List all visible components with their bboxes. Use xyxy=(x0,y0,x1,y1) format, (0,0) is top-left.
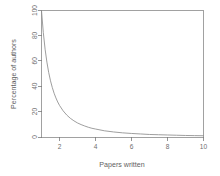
y-axis-title: Percentage of authors xyxy=(10,39,18,109)
y-tick-label: 60 xyxy=(31,57,38,65)
x-tick-label: 10 xyxy=(200,143,208,150)
x-tick-label: 4 xyxy=(94,143,98,150)
chart-figure: 0 20 40 60 80 100 2 4 6 8 10 Papers writ… xyxy=(0,0,220,176)
y-tick-label: 20 xyxy=(31,108,38,116)
x-tick-label: 2 xyxy=(58,143,62,150)
x-tick-label: 6 xyxy=(130,143,134,150)
y-tick-label: 80 xyxy=(31,31,38,39)
plot-svg: 0 20 40 60 80 100 2 4 6 8 10 Papers writ… xyxy=(0,0,220,176)
x-axis-title: Papers written xyxy=(99,161,144,169)
x-tick-label: 8 xyxy=(166,143,170,150)
y-tick-label: 40 xyxy=(31,82,38,90)
y-tick-label: 0 xyxy=(31,135,38,139)
y-tick-label: 100 xyxy=(31,5,38,16)
